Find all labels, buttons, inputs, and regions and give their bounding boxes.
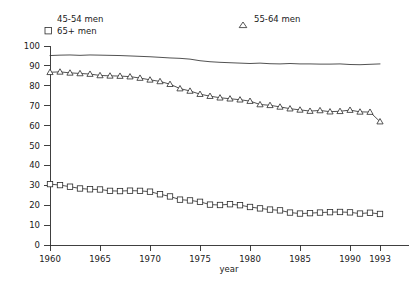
- data-point-marker-square: [317, 210, 322, 215]
- data-point-marker-square: [127, 188, 132, 193]
- data-point-marker-square: [357, 211, 362, 216]
- data-point-marker-square: [47, 181, 52, 186]
- x-axis-title: year: [220, 264, 239, 274]
- legend-label-2: 65+ men: [57, 26, 97, 36]
- y-tick-label: 80: [29, 81, 40, 91]
- data-point-marker-square: [137, 188, 142, 193]
- chart-series-layer: [47, 55, 383, 217]
- data-point-marker-square: [287, 210, 292, 215]
- y-tick-label: 30: [29, 180, 40, 190]
- data-point-marker-square: [227, 202, 232, 207]
- x-tick-label: 1960: [39, 254, 61, 264]
- y-tick-label: 50: [29, 141, 40, 151]
- data-point-marker-square: [327, 209, 332, 214]
- data-point-marker-square: [237, 203, 242, 208]
- x-tick-label: 1970: [139, 254, 161, 264]
- data-point-marker-square: [277, 208, 282, 213]
- y-tick-label: 100: [24, 41, 40, 51]
- data-point-marker-square: [177, 197, 182, 202]
- y-tick-label: 60: [29, 121, 40, 131]
- x-tick-label: 1975: [189, 254, 211, 264]
- y-tick-label: 90: [29, 61, 40, 71]
- y-axis-ticks: 0102030405060708090100: [24, 41, 50, 250]
- data-point-marker-square: [187, 198, 192, 203]
- x-tick-label: 1965: [89, 254, 111, 264]
- data-point-marker-triangle: [177, 85, 183, 90]
- x-axis-ticks: 19601965197019751980198519901993: [39, 245, 391, 264]
- data-point-marker-square: [337, 209, 342, 214]
- chart-container: 45-54 men 55-64 men 65+ men 010203040506…: [0, 0, 418, 287]
- data-point-marker-square: [207, 202, 212, 207]
- y-tick-label: 40: [29, 160, 40, 170]
- line-chart-svg: 45-54 men 55-64 men 65+ men 010203040506…: [0, 0, 418, 287]
- x-tick-label: 1985: [289, 254, 311, 264]
- data-point-marker-square: [67, 184, 72, 189]
- y-tick-label: 10: [29, 220, 40, 230]
- data-point-marker-square: [247, 204, 252, 209]
- data-point-marker-square: [167, 194, 172, 199]
- data-point-marker-triangle: [317, 107, 323, 112]
- data-point-marker-square: [97, 187, 102, 192]
- x-tick-label: 1990: [339, 254, 361, 264]
- legend-marker-square-icon: [45, 28, 51, 34]
- data-point-marker-square: [217, 202, 222, 207]
- chart-series: [47, 181, 382, 216]
- x-tick-label: 1980: [239, 254, 261, 264]
- legend-label-0: 45-54 men: [57, 14, 103, 24]
- data-point-marker-square: [307, 210, 312, 215]
- series-line-0: [50, 55, 380, 65]
- data-point-marker-square: [257, 206, 262, 211]
- x-tick-label: 1993: [369, 254, 391, 264]
- data-point-marker-square: [107, 188, 112, 193]
- data-point-marker-square: [347, 210, 352, 215]
- data-point-marker-square: [197, 199, 202, 204]
- chart-series: [47, 69, 383, 124]
- data-point-marker-square: [157, 192, 162, 197]
- data-point-marker-square: [87, 187, 92, 192]
- data-point-marker-square: [57, 182, 62, 187]
- legend-marker-triangle-icon: [239, 22, 247, 28]
- data-point-marker-triangle: [347, 107, 353, 112]
- data-point-marker-triangle: [57, 69, 63, 74]
- data-point-marker-square: [147, 189, 152, 194]
- data-point-marker-square: [297, 211, 302, 216]
- data-point-marker-square: [117, 188, 122, 193]
- data-point-marker-square: [367, 210, 372, 215]
- y-tick-label: 20: [29, 200, 40, 210]
- data-point-marker-square: [377, 211, 382, 216]
- data-point-marker-square: [267, 207, 272, 212]
- data-point-marker-square: [77, 186, 82, 191]
- y-tick-label: 70: [29, 101, 40, 111]
- y-tick-label: 0: [35, 240, 40, 250]
- legend-label-1: 55-64 men: [254, 14, 300, 24]
- chart-legend: 45-54 men 55-64 men 65+ men: [45, 14, 300, 36]
- chart-series: [50, 55, 380, 65]
